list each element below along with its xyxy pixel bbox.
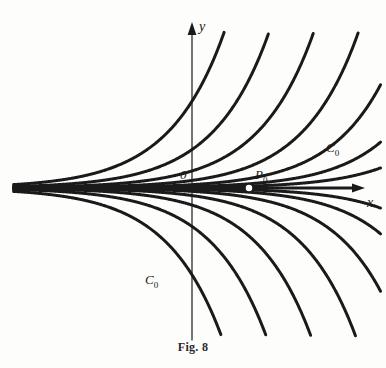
curve-label-c0-upper: C0	[326, 140, 339, 158]
curve-c0-lower-subscript: 0	[154, 280, 159, 290]
figure-caption: Fig. 8	[0, 340, 386, 355]
y-axis-label: y	[199, 19, 205, 35]
integral-curve	[14, 34, 269, 187]
figure-container: y x 0 P0 C0 C0 Fig. 8	[0, 0, 386, 368]
y-axis-arrowhead	[188, 22, 197, 35]
curve-c0-upper-letter: C	[326, 140, 335, 155]
point-p0-marker	[245, 184, 253, 192]
point-p0-letter: P	[255, 167, 263, 182]
x-axis-label: x	[367, 195, 373, 211]
x-axis-arrowhead	[352, 184, 365, 193]
marker-layer	[245, 184, 253, 192]
curve-c0-lower-letter: C	[145, 272, 154, 287]
origin-label: 0	[180, 167, 187, 183]
integral-curve	[14, 190, 266, 335]
point-p0-label: P0	[255, 167, 267, 185]
curve-label-c0-lower: C0	[145, 272, 158, 290]
curve-c0-upper-subscript: 0	[335, 148, 340, 158]
curve-family	[14, 32, 381, 335]
point-p0-subscript: 0	[263, 175, 268, 185]
integral-curve	[14, 191, 221, 334]
integral-curves-plot	[0, 0, 386, 368]
